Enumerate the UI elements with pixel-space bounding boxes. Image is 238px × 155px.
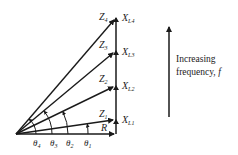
xl3-label: XL3 [121,46,134,58]
xl2-arrowhead [113,85,119,90]
theta3-label: θ3 [50,138,57,149]
theta3-arc [44,111,52,134]
theta1-arc [87,124,88,134]
impedance-phasor-diagram: Z1 Z2 Z3 Z4 XL1 XL2 XL3 XL4 R θ4 θ3 θ2 θ… [0,0,238,155]
theta1-label: θ1 [84,138,91,149]
z4-label: Z4 [99,11,108,23]
theta4-label: θ4 [33,138,40,149]
z2-label: Z2 [99,73,108,85]
xl3-arrowhead [113,50,119,55]
theta2-arc [63,112,68,135]
xl2-label: XL2 [121,80,134,92]
frequency-label-line2: frequency, f [176,67,222,77]
resistance-label: R [100,122,107,133]
xl1-label: XL1 [121,114,134,126]
xl1-arrowhead [113,119,119,124]
theta2-label: θ2 [66,138,73,149]
xl4-label: XL4 [121,12,134,24]
z3-label: Z3 [99,39,108,51]
xl4-arrowhead [113,17,119,22]
frequency-label-line1: Increasing [176,54,216,64]
z1-label: Z1 [99,108,108,120]
